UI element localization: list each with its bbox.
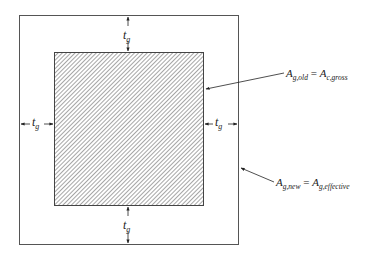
- dimension-label-right: tg: [215, 115, 222, 131]
- dimension-label-top: tg: [123, 28, 130, 44]
- label-new-area: Ag,new = Ag,effective: [275, 176, 350, 191]
- top-dimension: tg: [123, 17, 130, 51]
- bottom-dimension: tg: [123, 207, 130, 243]
- dimension-label-left: tg: [32, 115, 39, 131]
- leader-old-area: [206, 73, 284, 89]
- inner-hatched-box: [55, 53, 204, 206]
- area-diagram: tg tg tg tg Ag,old = Ac,gross Ag,new = A…: [0, 0, 368, 255]
- right-dimension: tg: [205, 115, 237, 131]
- left-dimension: tg: [21, 115, 53, 131]
- label-old-area: Ag,old = Ac,gross: [285, 67, 348, 82]
- leader-new-area: [241, 168, 274, 182]
- dimension-label-bottom: tg: [123, 218, 130, 234]
